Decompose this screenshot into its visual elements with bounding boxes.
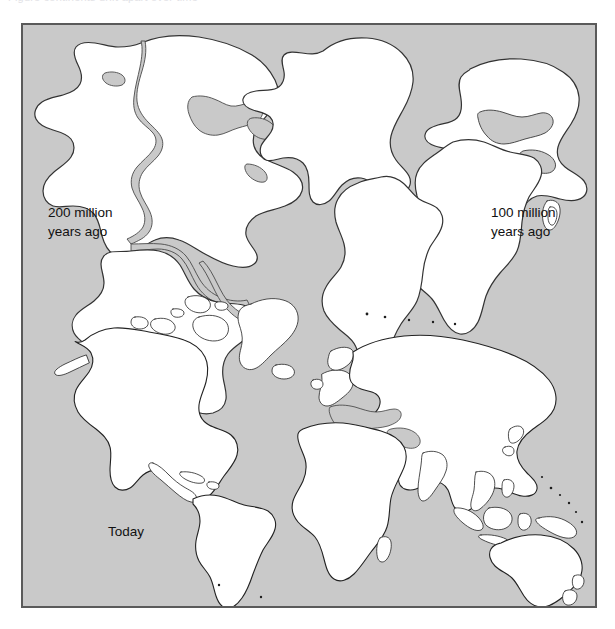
today-banks-island	[131, 317, 148, 329]
today-alaska-peninsula	[55, 355, 89, 375]
label-100my-line1: 100 million	[491, 205, 556, 220]
today-borneo	[483, 507, 512, 530]
today-pacific-islet-3	[568, 502, 570, 504]
today-arctic-islet-a	[171, 309, 184, 318]
today-scandinavia	[328, 347, 354, 370]
figure-frame: 200 million years ago	[21, 23, 597, 608]
today-arctic-dot-3	[408, 319, 410, 321]
today-pacific-islet-5	[541, 476, 543, 478]
today-british-isles	[311, 379, 323, 389]
today-arctic-dot-2	[384, 316, 387, 319]
today-atlantic-islet-2	[218, 584, 220, 586]
figure-page: Figure continents drift apart over time	[0, 0, 615, 629]
today-pacific-islet-2	[559, 494, 561, 496]
today-arctic-dot-4	[432, 321, 434, 323]
caption-text: Figure continents drift apart over time	[8, 0, 198, 3]
continental-drift-illustration: 200 million years ago	[23, 25, 595, 606]
today-africa	[292, 423, 406, 581]
today-philippines	[502, 479, 514, 497]
label-200my-line1: 200 million	[48, 205, 113, 220]
today-india-subcontinent	[418, 451, 447, 501]
today-iceland	[272, 364, 294, 379]
today-madagascar	[377, 537, 392, 562]
today-south-america	[193, 495, 276, 606]
label-today: Today	[108, 524, 144, 539]
clipped-caption-strip: Figure continents drift apart over time	[0, 0, 615, 14]
today-arctic-islet-b	[215, 302, 228, 311]
today-europe-west	[319, 370, 353, 406]
today-arctic-dot-1	[366, 313, 369, 316]
today-pacific-islet-6	[581, 521, 583, 523]
today-sumatra	[454, 508, 483, 531]
today-hispaniola	[207, 482, 219, 490]
label-100my-line2: years ago	[491, 224, 550, 239]
today-new-zealand-south	[563, 590, 577, 605]
today-pacific-islet-4	[575, 511, 577, 513]
today-arctic-dot-5	[454, 323, 456, 325]
label-200my-line2: years ago	[48, 224, 107, 239]
today-atlantic-islet-1	[260, 596, 262, 598]
panel-today-worldmap: Today	[55, 296, 584, 606]
today-greenland	[238, 299, 298, 370]
today-pacific-islet-1	[550, 487, 553, 490]
today-new-zealand-north	[572, 575, 584, 589]
today-sulawesi	[518, 513, 531, 530]
